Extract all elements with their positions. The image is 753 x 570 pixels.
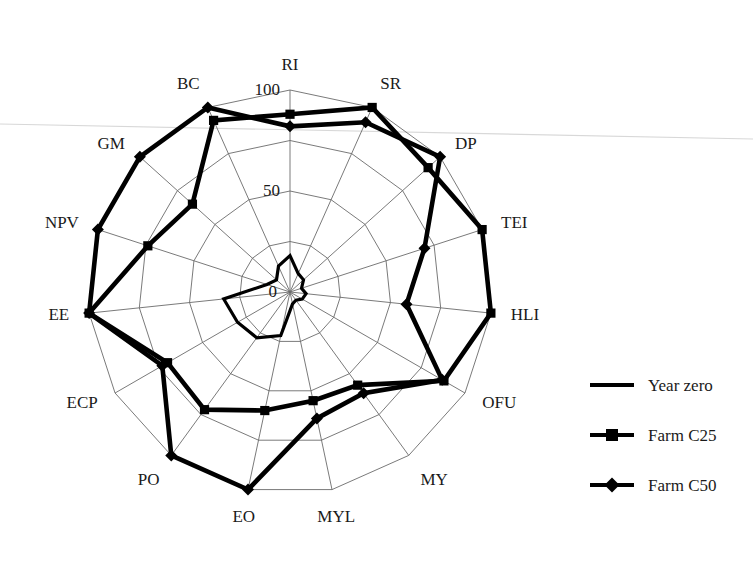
axis-spoke-ee bbox=[89, 292, 290, 313]
legend-square-marker-icon bbox=[606, 429, 618, 441]
legend-item-farm-c50[interactable]: Farm C50 bbox=[590, 476, 716, 495]
axis-spoke-gm bbox=[140, 157, 290, 292]
axis-label-my: MY bbox=[421, 470, 448, 489]
legend-label: Farm C50 bbox=[648, 476, 716, 495]
axis-spoke-tei bbox=[290, 230, 482, 292]
data-point-marker bbox=[478, 225, 487, 234]
axis-label-tei: TEI bbox=[501, 213, 528, 232]
axis-label-gm: GM bbox=[98, 134, 125, 153]
data-point-marker bbox=[368, 103, 377, 112]
data-point-marker bbox=[260, 406, 269, 415]
axis-label-ee: EE bbox=[48, 305, 69, 324]
radar-chart-canvas: 050100 RISRDPTEIHLIOFUMYMYLEOPOECPEENPVG… bbox=[0, 0, 753, 570]
radial-tick-label-100: 100 bbox=[255, 80, 281, 99]
axis-label-npv: NPV bbox=[45, 213, 80, 232]
legend-item-year-zero[interactable]: Year zero bbox=[590, 376, 713, 395]
radial-tick-label-0: 0 bbox=[269, 282, 278, 301]
axis-label-bc: BC bbox=[177, 74, 200, 93]
data-point-marker bbox=[309, 396, 318, 405]
axis-spoke-npv bbox=[98, 230, 290, 292]
data-point-marker bbox=[200, 405, 209, 414]
legend-item-farm-c25[interactable]: Farm C25 bbox=[590, 426, 716, 445]
axis-label-ecp: ECP bbox=[67, 393, 98, 412]
radar-chart-figure: 050100 RISRDPTEIHLIOFUMYMYLEOPOECPEENPVG… bbox=[0, 0, 753, 570]
legend-label: Year zero bbox=[648, 376, 713, 395]
axis-label-dp: DP bbox=[455, 134, 477, 153]
axis-label-eo: EO bbox=[232, 507, 255, 526]
data-point-marker bbox=[353, 381, 362, 390]
axis-label-sr: SR bbox=[380, 74, 401, 93]
data-point-marker bbox=[424, 163, 433, 172]
legend-label: Farm C25 bbox=[648, 426, 716, 445]
axis-label-hli: HLI bbox=[511, 305, 540, 324]
radial-tick-label-50: 50 bbox=[263, 181, 280, 200]
axis-label-ri: RI bbox=[282, 55, 299, 74]
legend-diamond-marker-icon bbox=[605, 478, 620, 493]
data-point-marker bbox=[209, 116, 218, 125]
chart-legend: Year zeroFarm C25Farm C50 bbox=[590, 376, 716, 495]
radar-marker-layer bbox=[83, 101, 495, 495]
data-point-marker bbox=[285, 110, 294, 119]
data-point-marker bbox=[188, 200, 197, 209]
axis-label-myl: MYL bbox=[317, 507, 355, 526]
axis-spoke-ecp bbox=[115, 292, 290, 393]
series-polygon-farm-c50 bbox=[89, 107, 442, 489]
data-point-marker bbox=[486, 309, 495, 318]
axis-label-po: PO bbox=[138, 470, 160, 489]
data-point-marker bbox=[143, 241, 152, 250]
data-point-marker bbox=[284, 120, 296, 132]
axis-label-ofu: OFU bbox=[482, 393, 516, 412]
data-point-marker bbox=[418, 242, 430, 254]
axis-spoke-hli bbox=[290, 292, 491, 313]
